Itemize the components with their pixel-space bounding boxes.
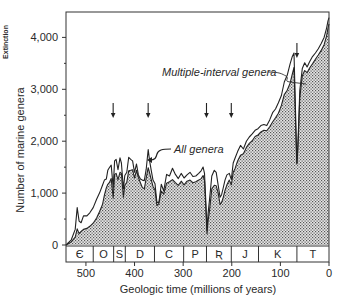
extinction-arrow-icon	[295, 43, 300, 58]
y-tick-label: 1,000	[30, 187, 58, 199]
extinction-arrow-icon	[146, 103, 151, 118]
period-label: K	[274, 248, 282, 260]
extinction-side-label: Extinction	[2, 25, 9, 59]
y-tick-label: 4,000	[30, 31, 58, 43]
x-axis-ticks: 5004003002001000	[77, 262, 332, 279]
y-tick-label: 0	[52, 239, 58, 251]
period-label: Ʀ	[215, 248, 223, 260]
period-label: P	[191, 248, 198, 260]
multiple-interval-fill	[66, 18, 329, 245]
y-axis-label: Number of marine genera	[14, 86, 26, 212]
x-tick-label: 500	[77, 267, 95, 279]
x-tick-label: 0	[326, 267, 332, 279]
multiple-interval-label: Multiple-interval genera	[162, 66, 276, 78]
x-tick-label: 300	[174, 267, 192, 279]
period-label: J	[242, 248, 248, 260]
geologic-period-band: ЄOSDCPƦJKT	[66, 246, 329, 262]
x-axis-label: Geologic time (millions of years)	[120, 283, 277, 295]
annotation-all-genera: All genera	[147, 143, 224, 163]
period-label: D	[136, 248, 144, 260]
x-tick-label: 100	[271, 267, 289, 279]
y-axis-ticks: 01,0002,0003,0004,000	[30, 31, 66, 251]
period-label: S	[116, 248, 123, 260]
extinction-arrow-icon	[111, 103, 116, 118]
extinction-arrow-icon	[204, 103, 209, 118]
period-label: O	[99, 248, 108, 260]
x-tick-label: 200	[223, 267, 241, 279]
period-label: T	[310, 248, 317, 260]
annotation-arrow-line	[150, 149, 171, 160]
extinction-arrows	[111, 43, 299, 118]
extinction-arrow-icon	[229, 103, 234, 118]
y-tick-label: 2,000	[30, 135, 58, 147]
marine-genera-chart: Extinction Number of marine genera Geolo…	[0, 0, 339, 301]
y-tick-label: 3,000	[30, 83, 58, 95]
all-genera-label: All genera	[173, 143, 224, 155]
multiple-interval-area	[66, 24, 329, 245]
period-label: C	[165, 248, 173, 260]
x-tick-label: 400	[125, 267, 143, 279]
period-label: Є	[76, 248, 84, 260]
